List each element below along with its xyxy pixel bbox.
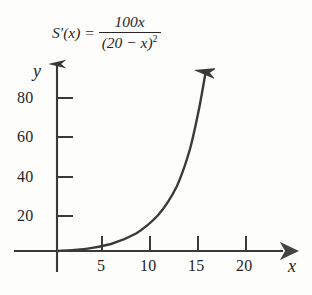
formula-expression: S′(x) = 100x (20 − x)2: [52, 14, 161, 52]
y-tick-label-60: 60: [17, 129, 33, 145]
x-axis-label: x: [288, 257, 296, 275]
figure-container: S′(x) = 100x (20 − x)2 y x 80 60 40 20 5…: [0, 0, 312, 295]
y-axis-label: y: [33, 62, 41, 80]
x-tick-label-10: 10: [140, 258, 156, 274]
x-tick-label-15: 15: [188, 258, 204, 274]
formula-fraction: 100x (20 − x)2: [99, 14, 161, 52]
y-tick-label-80: 80: [17, 90, 33, 106]
y-tick-label-40: 40: [17, 169, 33, 185]
formula-denominator: (20 − x)2: [99, 33, 161, 52]
denominator-base: (20 − x): [102, 34, 153, 51]
curve-path: [57, 72, 206, 251]
denominator-exponent: 2: [153, 33, 158, 44]
x-tick-label-5: 5: [97, 258, 105, 274]
formula-lhs: S′(x) =: [52, 24, 95, 42]
y-tick-label-20: 20: [17, 208, 33, 224]
x-tick-label-20: 20: [236, 258, 252, 274]
formula-numerator: 100x: [110, 14, 150, 32]
